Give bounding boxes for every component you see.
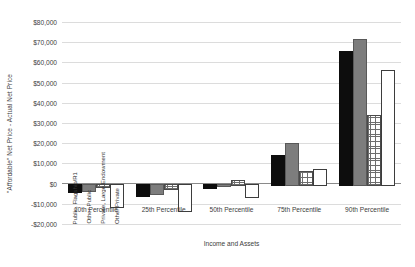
x-axis-title: Income and Assets — [62, 240, 401, 247]
y-axis-title: "Affordable" Net Price - Actual Net Pric… — [2, 0, 16, 267]
bar-group-bars — [333, 22, 401, 224]
bar-group — [130, 22, 198, 224]
bar-group — [333, 22, 401, 224]
bar-rect — [271, 155, 285, 185]
bar-group-bars — [62, 22, 130, 224]
bar-rect — [313, 169, 327, 185]
plot-area: $80,000$70,000$60,000$50,000$40,000$30,0… — [62, 22, 401, 224]
bar-rect — [245, 184, 259, 198]
bar-rect — [231, 180, 245, 186]
y-axis-tick-label: $30,000 — [33, 120, 57, 127]
bar-rect — [68, 184, 82, 193]
bar-rect — [381, 70, 395, 185]
bar-rect — [164, 184, 178, 190]
bar-rect — [367, 115, 381, 186]
bar-rect — [110, 184, 124, 208]
y-axis-tick-label: -$10,000 — [31, 200, 57, 207]
bar-group — [62, 22, 130, 224]
bar-group-bars — [198, 22, 266, 224]
bar-rect — [203, 184, 217, 189]
y-axis-tick-label: $80,000 — [33, 19, 57, 26]
bar-rect — [82, 184, 96, 192]
y-axis-tick-label: $20,000 — [33, 140, 57, 147]
x-axis-tick-label: 75th Percentile — [265, 206, 333, 213]
bar-rect — [96, 184, 110, 188]
bar-rect — [217, 184, 231, 187]
y-axis-tick-label: $10,000 — [33, 160, 57, 167]
y-axis-title-text: "Affordable" Net Price - Actual Net Pric… — [6, 74, 13, 193]
bar-group-bars — [265, 22, 333, 224]
bar-rect — [150, 184, 164, 195]
bar-rect — [353, 39, 367, 185]
bar-group-bars — [130, 22, 198, 224]
x-axis-tick-label: 25th Percentile — [130, 206, 198, 213]
y-axis-tick-label: $70,000 — [33, 39, 57, 46]
bar-rect — [136, 184, 150, 197]
y-axis-tick-label: $40,000 — [33, 99, 57, 106]
x-axis-tick-label: 90th Percentile — [333, 206, 401, 213]
y-axis-tick-label: $50,000 — [33, 79, 57, 86]
bar-rect — [339, 51, 353, 185]
x-axis-tick-label: 10th Percentile — [62, 206, 130, 213]
bar-rect — [299, 171, 313, 185]
y-axis-tick-label: $0 — [50, 180, 57, 187]
bar-rect — [285, 143, 299, 185]
x-axis-tick-label: 50th Percentile — [198, 206, 266, 213]
y-axis-tick-label: $60,000 — [33, 59, 57, 66]
bar-groups — [62, 22, 401, 224]
gridline — [62, 224, 401, 225]
bar-group — [198, 22, 266, 224]
bar-group — [265, 22, 333, 224]
y-axis-tick-label: -$20,000 — [31, 221, 57, 228]
chart-root: "Affordable" Net Price - Actual Net Pric… — [0, 0, 415, 267]
